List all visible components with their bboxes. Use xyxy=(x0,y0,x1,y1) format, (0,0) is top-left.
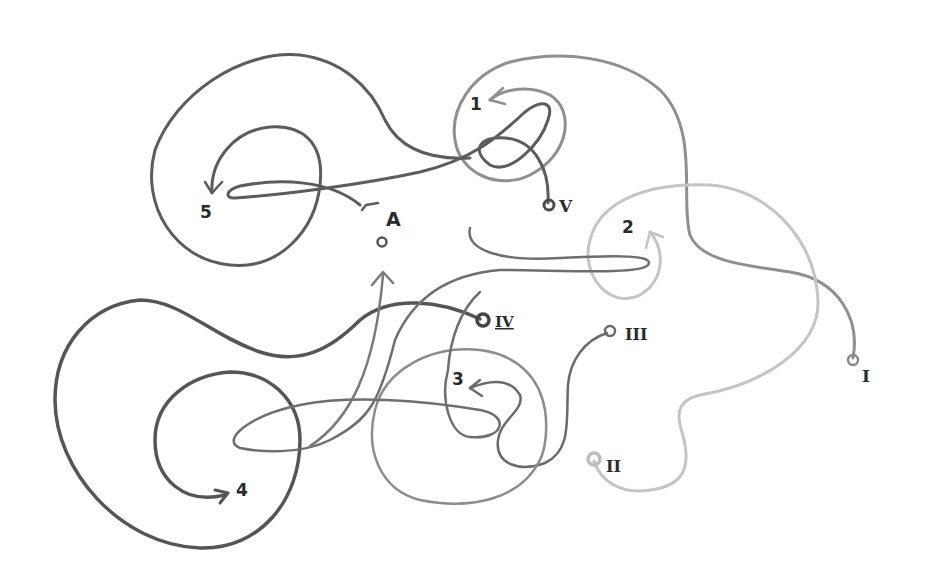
line-IV xyxy=(55,300,480,548)
label-III: III xyxy=(625,325,647,344)
label-1: 1 xyxy=(470,94,482,114)
point-A[interactable] xyxy=(378,238,387,247)
line-I xyxy=(454,56,854,358)
start-circle-V[interactable] xyxy=(544,200,554,210)
label-V: V xyxy=(558,196,573,216)
line-5-loop xyxy=(152,55,470,266)
label-I: I xyxy=(862,366,870,386)
label-II: II xyxy=(606,457,621,476)
label-IV: IV xyxy=(495,313,514,331)
line-V xyxy=(228,104,550,205)
arrowhead-3 xyxy=(470,380,482,396)
label-A: A xyxy=(386,208,401,230)
arrowhead-A xyxy=(362,203,378,210)
label-3: 3 xyxy=(452,369,464,389)
tangled-lines-drawing: 1 2 3 4 5 A I II III IV V xyxy=(0,0,928,585)
label-2: 2 xyxy=(622,217,634,237)
start-circle-III[interactable] xyxy=(605,326,615,336)
label-5: 5 xyxy=(200,202,212,222)
label-4: 4 xyxy=(236,480,248,500)
